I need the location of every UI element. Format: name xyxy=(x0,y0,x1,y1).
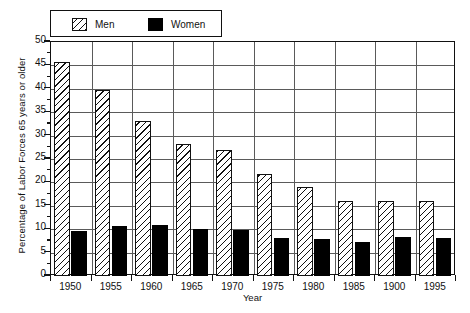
gridline-horizontal xyxy=(51,206,454,207)
y-tick-label: 20 xyxy=(6,174,46,185)
bar-men-1955 xyxy=(95,90,111,276)
y-tick-label: 15 xyxy=(6,198,46,209)
gridline-horizontal xyxy=(51,182,454,183)
x-tick-label: 1970 xyxy=(209,281,255,292)
gridline-horizontal xyxy=(51,112,454,113)
y-tick-label: 5 xyxy=(6,245,46,256)
bar-women-1985 xyxy=(355,242,371,276)
bar-men-1950 xyxy=(54,62,70,276)
gridline-vertical xyxy=(294,42,295,274)
x-tick-label: 1985 xyxy=(331,281,377,292)
gridline-vertical xyxy=(254,42,255,274)
y-tick-label: 0 xyxy=(6,268,46,279)
y-tick-label: 50 xyxy=(6,34,46,45)
x-tick-label: 1960 xyxy=(128,281,174,292)
gridline-horizontal xyxy=(51,65,454,66)
bar-women-1955 xyxy=(112,226,128,276)
x-tick-label: 1980 xyxy=(290,281,336,292)
legend-swatch-men-icon xyxy=(72,18,87,31)
bar-men-1995 xyxy=(419,201,435,276)
bar-men-1980 xyxy=(297,187,313,276)
y-tick-label: 45 xyxy=(6,57,46,68)
y-tick-label: 35 xyxy=(6,104,46,115)
gridline-vertical xyxy=(416,42,417,274)
bar-men-1965 xyxy=(176,144,192,276)
gridline-horizontal xyxy=(51,89,454,90)
legend-entry-men: Men xyxy=(72,16,114,32)
gridline-vertical xyxy=(213,42,214,274)
bar-women-1975 xyxy=(274,238,290,276)
legend-swatch-women-icon xyxy=(148,18,163,31)
bar-men-1970 xyxy=(216,150,232,276)
x-tick-label: 1950 xyxy=(47,281,93,292)
bar-men-1985 xyxy=(338,201,354,276)
y-tick-label: 40 xyxy=(6,81,46,92)
gridline-horizontal xyxy=(51,136,454,137)
gridline-vertical xyxy=(132,42,133,274)
bar-men-1900 xyxy=(378,201,394,276)
x-tick-label: 1900 xyxy=(371,281,417,292)
bar-women-1950 xyxy=(71,231,87,276)
x-tick-label: 1995 xyxy=(412,281,458,292)
x-tick-label: 1975 xyxy=(250,281,296,292)
y-tick-label: 30 xyxy=(6,128,46,139)
legend-label-men: Men xyxy=(95,19,114,30)
bar-chart: Percentage of Labor Forces 65 years or o… xyxy=(0,0,470,313)
legend-label-women: Women xyxy=(171,19,205,30)
y-tick-label: 10 xyxy=(6,221,46,232)
y-tick-label: 25 xyxy=(6,151,46,162)
bar-women-1900 xyxy=(395,237,411,276)
bar-women-1960 xyxy=(152,225,168,276)
gridline-vertical xyxy=(173,42,174,274)
x-tick-label: 1965 xyxy=(169,281,215,292)
bar-men-1960 xyxy=(135,121,151,276)
bar-women-1995 xyxy=(436,238,452,276)
gridline-vertical xyxy=(92,42,93,274)
gridline-horizontal xyxy=(51,159,454,160)
bar-women-1980 xyxy=(314,239,330,276)
legend-entry-women: Women xyxy=(148,16,205,32)
legend: Men Women xyxy=(50,10,222,37)
x-axis-title: Year xyxy=(50,292,455,303)
bar-women-1965 xyxy=(193,229,209,276)
bar-men-1975 xyxy=(257,174,273,276)
plot-area xyxy=(50,41,455,275)
gridline-vertical xyxy=(335,42,336,274)
bar-women-1970 xyxy=(233,230,249,276)
x-tick-label: 1955 xyxy=(88,281,134,292)
gridline-vertical xyxy=(375,42,376,274)
